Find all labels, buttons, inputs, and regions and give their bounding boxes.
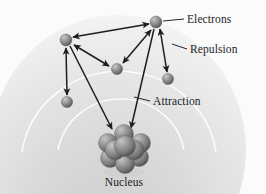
electron-upper-left bbox=[60, 34, 72, 46]
electron-right bbox=[162, 73, 173, 84]
label-attraction: Attraction bbox=[153, 95, 201, 107]
leader-line-electrons bbox=[163, 19, 184, 21]
electron-lower-left bbox=[61, 96, 72, 107]
nucleon bbox=[115, 136, 136, 157]
diagram-canvas: Electrons Repulsion Attraction Nucleus bbox=[0, 0, 266, 194]
electron-top-right bbox=[150, 16, 162, 28]
atomic-forces-figure: Electrons Repulsion Attraction Nucleus bbox=[0, 0, 266, 194]
label-electrons: Electrons bbox=[187, 13, 232, 25]
label-repulsion: Repulsion bbox=[190, 43, 238, 56]
electron-center bbox=[111, 63, 122, 74]
label-nucleus: Nucleus bbox=[105, 176, 144, 188]
repulsion-arrow-upperleft-lowerleft bbox=[66, 48, 67, 95]
